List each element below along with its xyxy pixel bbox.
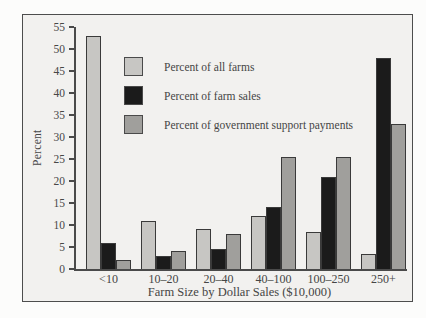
y-tick-label: 15 <box>39 197 65 210</box>
bar <box>86 36 101 269</box>
bar <box>361 254 376 269</box>
y-axis-tick <box>69 48 74 50</box>
bar-group <box>306 157 351 269</box>
bar <box>116 260 131 269</box>
y-axis-tick <box>69 180 74 182</box>
y-tick-label: 35 <box>39 109 65 122</box>
legend-swatch <box>124 57 143 76</box>
y-tick-label: 25 <box>39 153 65 166</box>
bar <box>156 256 171 269</box>
y-axis-title: Percent <box>31 27 46 269</box>
legend-label: Percent of all farms <box>164 61 254 73</box>
y-axis-tick <box>69 70 74 72</box>
y-axis-tick <box>69 268 74 270</box>
y-tick-label: 5 <box>39 241 65 254</box>
bar <box>101 243 116 269</box>
bar <box>211 249 226 269</box>
y-axis-tick <box>69 224 74 226</box>
y-tick-label: 40 <box>39 87 65 100</box>
bar <box>391 124 406 269</box>
y-axis-tick <box>69 158 74 160</box>
legend-item: Percent of farm sales <box>124 86 353 105</box>
x-category-label: 250+ <box>371 272 396 287</box>
bar-group <box>361 58 406 269</box>
legend: Percent of all farmsPercent of farm sale… <box>124 57 353 144</box>
bar-group <box>251 157 296 269</box>
legend-swatch <box>124 115 143 134</box>
y-axis-tick <box>69 26 74 28</box>
legend-swatch <box>124 86 143 105</box>
y-axis-tick <box>69 136 74 138</box>
bar <box>321 177 336 269</box>
x-category-label: <10 <box>99 272 118 287</box>
legend-label: Percent of government support payments <box>164 119 353 131</box>
bar <box>251 216 266 269</box>
chart-frame: Percent 0510152025303540455055<1010–2020… <box>22 14 413 302</box>
y-tick-label: 30 <box>39 131 65 144</box>
bar <box>306 232 321 269</box>
y-tick-label: 50 <box>39 43 65 56</box>
legend-item: Percent of government support payments <box>124 115 353 134</box>
y-axis-tick <box>69 92 74 94</box>
bar-group <box>196 229 241 269</box>
legend-item: Percent of all farms <box>124 57 353 76</box>
bar <box>196 229 211 269</box>
y-tick-label: 10 <box>39 219 65 232</box>
bar <box>336 157 351 269</box>
bar <box>171 251 186 269</box>
bar <box>141 221 156 269</box>
y-tick-label: 45 <box>39 65 65 78</box>
x-axis-title: Farm Size by Dollar Sales ($10,000) <box>74 286 405 299</box>
bar <box>226 234 241 269</box>
bar <box>376 58 391 269</box>
bar <box>281 157 296 269</box>
bar <box>266 207 281 269</box>
y-axis-tick <box>69 114 74 116</box>
bar-group <box>141 221 186 269</box>
y-axis-tick <box>69 246 74 248</box>
y-tick-label: 55 <box>39 21 65 34</box>
y-tick-label: 0 <box>39 263 65 276</box>
legend-label: Percent of farm sales <box>164 90 261 102</box>
y-tick-label: 20 <box>39 175 65 188</box>
y-axis-tick <box>69 202 74 204</box>
